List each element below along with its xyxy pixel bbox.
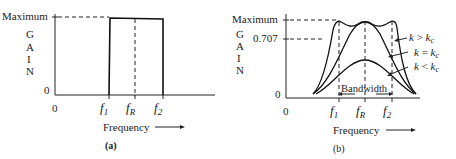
bandwidth-label: Bandwidth	[341, 83, 388, 94]
y-zero-label: 0	[275, 88, 281, 100]
gain-letter: A	[236, 40, 244, 52]
ideal-response	[109, 18, 163, 95]
tick-f2: f2	[383, 103, 392, 120]
tick-fr: fR	[126, 100, 136, 117]
x-origin-label: 0	[52, 102, 58, 114]
diagram-canvas: Maximum 0 G A I N 0 f1 fR f2 Frequency (…	[0, 0, 456, 159]
label-k-lt-kc: k < kc	[414, 60, 440, 74]
caption-b: (b)	[333, 143, 345, 155]
caption-a: (a)	[105, 140, 117, 152]
tick-fr: fR	[356, 103, 366, 120]
tick-f2: f2	[154, 100, 163, 117]
y-zero-label: 0	[44, 84, 50, 96]
x-axis-label: Frequency	[333, 124, 380, 136]
x-origin-label: 0	[283, 105, 289, 117]
gain-letter: N	[26, 65, 34, 77]
gain-letter: G	[26, 28, 34, 40]
y-0707-label: 0.707	[253, 32, 278, 44]
y-max-label: Maximum	[2, 10, 48, 22]
label-k-gt-kc: k > kc	[409, 31, 435, 45]
label-k-eq-kc: k = kc	[414, 46, 440, 60]
panel-b: Bandwidth k > kc k = kc k < kc Maximum 0…	[232, 13, 440, 155]
gain-letter: I	[27, 53, 31, 65]
gain-letter: I	[237, 52, 241, 64]
x-axis-label: Frequency	[103, 121, 150, 133]
tick-f1: f1	[100, 100, 108, 117]
gain-letter: N	[236, 64, 244, 76]
y-max-label: Maximum	[232, 13, 278, 25]
gain-letter: A	[26, 41, 34, 53]
panel-a: Maximum 0 G A I N 0 f1 fR f2 Frequency (…	[2, 10, 215, 152]
tick-f1: f1	[330, 103, 338, 120]
gain-letter: G	[236, 28, 244, 40]
